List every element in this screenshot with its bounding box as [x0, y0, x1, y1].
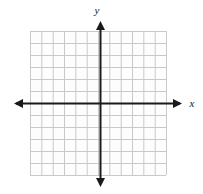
y-axis-down-arrowhead: [96, 178, 105, 187]
x-axis-label: x: [189, 97, 195, 109]
y-axis-label: y: [94, 4, 100, 16]
x-axis-right-arrowhead: [173, 99, 182, 108]
x-axis-left-arrowhead: [14, 99, 23, 108]
coordinate-grid-figure: y x: [0, 0, 203, 194]
coordinate-plane-graph: y x: [0, 0, 203, 194]
y-axis-up-arrowhead: [96, 21, 105, 30]
